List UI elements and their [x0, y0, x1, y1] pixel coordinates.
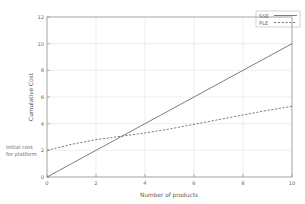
chart-legend: SSE PLE — [256, 11, 300, 27]
y-axis-title: Cumulative Cost — [28, 72, 34, 121]
y-axis-tick-labels: 12 10 8 6 4 2 0 — [37, 14, 44, 180]
x-axis-tickmarks — [47, 174, 292, 177]
initial-cost-annotation: Initial cost for platform — [6, 144, 37, 158]
x-axis-tick-labels: 0 2 4 6 8 10 — [45, 180, 295, 186]
x-tick-label: 4 — [143, 180, 147, 186]
x-tick-label: 10 — [289, 180, 296, 186]
y-tick-label: 12 — [37, 14, 44, 20]
y-tick-label: 4 — [41, 121, 45, 127]
x-tick-label: 8 — [241, 180, 244, 186]
legend-label-sse: SSE — [259, 13, 269, 19]
y-tick-label: 10 — [37, 41, 44, 47]
x-tick-label: 0 — [45, 180, 48, 186]
x-tick-label: 2 — [94, 180, 97, 186]
legend-label-ple: PLE — [259, 20, 268, 26]
annotation-line-1: Initial cost — [6, 144, 33, 150]
y-tick-label: 6 — [41, 94, 44, 100]
horizontal-gridlines — [47, 17, 292, 177]
x-tick-label: 6 — [192, 180, 195, 186]
series-line-sse — [47, 44, 292, 177]
annotation-line-2: for platform — [6, 151, 37, 158]
x-axis-title: Number of products — [140, 192, 198, 199]
y-tick-label: 8 — [41, 67, 44, 73]
chart-container: 12 10 8 6 4 2 0 0 2 4 6 8 10 Number of p… — [0, 0, 305, 204]
y-axis-tickmarks — [47, 17, 50, 177]
series-line-ple — [47, 106, 292, 150]
line-chart: 12 10 8 6 4 2 0 0 2 4 6 8 10 Number of p… — [0, 0, 305, 204]
y-tick-label: 2 — [41, 147, 44, 153]
y-tick-label: 0 — [41, 174, 44, 180]
